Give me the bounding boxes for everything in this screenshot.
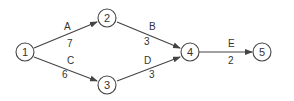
edge-b-duration: 3 <box>144 36 150 47</box>
node-4: 4 <box>181 43 199 61</box>
edge-e-activity: E <box>228 38 235 49</box>
node-5-label: 5 <box>259 46 265 58</box>
node-3: 3 <box>98 76 116 94</box>
network-diagram: A 7 B 3 C 6 D 3 E 2 1 <box>0 0 294 101</box>
edge-d: D 3 <box>117 55 180 81</box>
node-4-label: 4 <box>187 46 193 58</box>
node-3-label: 3 <box>104 79 110 91</box>
edge-e-duration: 2 <box>228 55 234 66</box>
edge-a-duration: 7 <box>67 38 73 49</box>
node-1: 1 <box>16 43 34 61</box>
edge-c: C 6 <box>34 55 97 81</box>
edge-e: E 2 <box>199 38 252 66</box>
edge-a-activity: A <box>64 21 71 32</box>
edge-b: B 3 <box>117 21 180 48</box>
edge-c-activity: C <box>67 55 74 66</box>
node-1-label: 1 <box>22 46 28 58</box>
node-2-label: 2 <box>104 12 110 24</box>
edge-d-activity: D <box>144 55 151 66</box>
node-5: 5 <box>253 43 271 61</box>
edge-b-activity: B <box>149 21 156 32</box>
edge-d-duration: 3 <box>149 69 155 80</box>
edge-c-duration: 6 <box>62 69 68 80</box>
node-2: 2 <box>98 9 116 27</box>
edge-a: A 7 <box>34 21 97 49</box>
